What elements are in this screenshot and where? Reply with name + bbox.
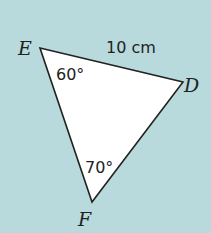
vertex-label-F: F	[77, 208, 92, 230]
angle-label-F: 70°	[85, 158, 113, 177]
vertex-label-D: D	[183, 74, 199, 96]
angle-label-E: 60°	[56, 65, 84, 84]
triangle-diagram: E D F 10 cm 60° 70°	[0, 0, 211, 233]
vertex-label-E: E	[17, 37, 32, 59]
side-length-ED: 10 cm	[106, 38, 156, 57]
